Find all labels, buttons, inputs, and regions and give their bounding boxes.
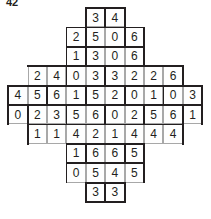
- domino-edge: [104, 7, 106, 28]
- domino-edge: [85, 7, 87, 28]
- cell-value: 5: [34, 89, 41, 101]
- cell-value: 1: [34, 128, 41, 140]
- domino-cell: 2: [86, 124, 105, 143]
- domino-edge: [124, 85, 126, 106]
- cell-value: 0: [15, 108, 22, 120]
- cell-value: 4: [131, 128, 138, 140]
- cell-value: 3: [92, 69, 99, 81]
- domino-edge: [46, 85, 48, 106]
- domino-edge: [66, 162, 145, 164]
- domino-cell: 3: [105, 183, 124, 202]
- domino-edge: [143, 85, 164, 87]
- domino-cell: 1: [66, 144, 85, 163]
- domino-cell: 3: [47, 105, 66, 124]
- cell-value: 6: [92, 147, 99, 159]
- cell-value: 4: [112, 11, 119, 23]
- domino-edge: [143, 104, 164, 106]
- domino-cell: 4: [163, 124, 182, 143]
- domino-edge: [143, 104, 145, 125]
- domino-cell: 1: [183, 105, 202, 124]
- cell-value: 4: [150, 128, 157, 140]
- domino-cell: 6: [163, 105, 182, 124]
- domino-cell: 1: [66, 47, 85, 66]
- cell-value: 4: [53, 69, 60, 81]
- cell-value: 4: [15, 89, 22, 101]
- domino-edge: [104, 124, 125, 126]
- cell-value: 6: [53, 89, 60, 101]
- domino-cell: 6: [86, 105, 105, 124]
- domino-cell: 4: [8, 86, 27, 105]
- domino-cell: 0: [105, 105, 124, 124]
- domino-cell: 5: [144, 105, 163, 124]
- domino-edge: [104, 143, 125, 145]
- domino-cell: 6: [105, 144, 124, 163]
- cell-value: 1: [73, 50, 80, 62]
- domino-edge: [27, 104, 48, 106]
- cell-value: 0: [170, 89, 177, 101]
- cell-value: 6: [112, 147, 119, 159]
- domino-cell: 2: [66, 27, 85, 46]
- domino-cell: 0: [105, 27, 124, 46]
- domino-cell: 0: [125, 86, 144, 105]
- domino-edge: [66, 143, 68, 184]
- cell-value: 3: [112, 186, 119, 198]
- cell-value: 5: [131, 147, 138, 159]
- domino-cell: 5: [86, 27, 105, 46]
- domino-cell: 3: [183, 86, 202, 105]
- domino-edge: [85, 143, 87, 164]
- domino-cell: 6: [125, 47, 144, 66]
- domino-cell: 0: [163, 86, 182, 105]
- domino-edge: [124, 143, 126, 164]
- cell-value: 5: [73, 108, 80, 120]
- cell-value: 5: [150, 108, 157, 120]
- cell-value: 5: [92, 31, 99, 43]
- cell-value: 1: [112, 128, 119, 140]
- cell-value: 1: [53, 128, 60, 140]
- domino-edge: [104, 65, 125, 67]
- domino-cell: 2: [125, 105, 144, 124]
- domino-edge: [66, 104, 68, 125]
- domino-cell: 5: [125, 144, 144, 163]
- domino-edge: [66, 85, 87, 87]
- domino-cell: 5: [28, 86, 47, 105]
- domino-cell: 0: [66, 163, 85, 182]
- domino-edge: [66, 104, 87, 106]
- domino-edge: [66, 65, 87, 67]
- domino-cell: 0: [66, 66, 85, 85]
- domino-edge: [201, 85, 203, 126]
- domino-edge: [66, 65, 68, 86]
- domino-cell: 5: [86, 163, 105, 182]
- domino-edge: [124, 182, 126, 203]
- domino-edge: [66, 27, 68, 68]
- cell-value: 0: [73, 69, 80, 81]
- domino-edge: [85, 27, 87, 68]
- cell-value: 0: [131, 89, 138, 101]
- domino-cell: 4: [105, 163, 124, 182]
- domino-edge: [182, 104, 203, 106]
- domino-cell: 6: [86, 144, 105, 163]
- cell-value: 6: [131, 31, 138, 43]
- domino-edge: [66, 143, 87, 145]
- domino-cell: 4: [47, 66, 66, 85]
- cell-value: 6: [92, 108, 99, 120]
- domino-cell: 4: [66, 124, 85, 143]
- domino-edge: [27, 104, 29, 125]
- cell-value: 2: [34, 108, 41, 120]
- cell-value: 5: [131, 166, 138, 178]
- domino-cell: 3: [86, 66, 105, 85]
- cell-value: 4: [73, 128, 80, 140]
- domino-cell: 6: [163, 66, 182, 85]
- domino-edge: [143, 27, 145, 68]
- domino-edge: [143, 143, 145, 184]
- domino-edge: [182, 104, 184, 125]
- domino-cell: 6: [125, 27, 144, 46]
- cell-value: 1: [73, 89, 80, 101]
- domino-edge: [27, 124, 48, 126]
- domino-cell: 2: [125, 66, 144, 85]
- domino-cell: 6: [47, 86, 66, 105]
- domino-edge: [143, 124, 164, 126]
- cell-value: 2: [112, 89, 119, 101]
- cell-value: 6: [131, 50, 138, 62]
- domino-cell: 4: [105, 8, 124, 27]
- cell-value: 0: [73, 166, 80, 178]
